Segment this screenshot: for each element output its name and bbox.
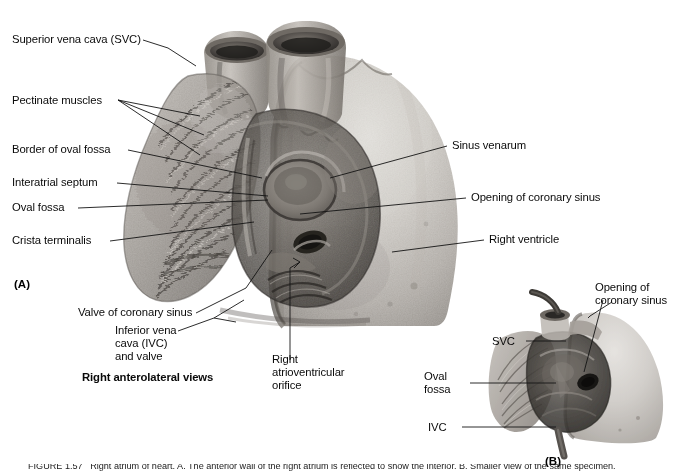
panel-a-marker: (A) (14, 278, 30, 290)
figure-caption-strip: FIGURE 1.57 Right atrium of heart. A. Th… (0, 464, 678, 474)
panel-b-superior-tube (532, 292, 558, 312)
label-border-of-oval-fossa: Border of oval fossa (12, 143, 110, 156)
label-inferior-vena-cava-and-valve: Inferior vena cava (IVC) and valve (115, 324, 177, 364)
label-sinus-venarum: Sinus venarum (452, 139, 526, 152)
view-caption: Right anterolateral views (82, 371, 213, 384)
label-b-svc: SVC (492, 335, 515, 348)
label-oval-fossa: Oval fossa (12, 201, 64, 214)
panel-a-specimen-image (70, 18, 490, 328)
label-opening-of-coronary-sinus: Opening of coronary sinus (471, 191, 600, 204)
panel-b-atrial-cavity (527, 332, 611, 432)
label-b-ivc: IVC (428, 421, 447, 434)
figure-container: Superior vena cava (SVC) Pectinate muscl… (0, 0, 678, 474)
figure-caption-text: FIGURE 1.57 Right atrium of heart. A. Th… (28, 464, 616, 471)
label-interatrial-septum: Interatrial septum (12, 176, 97, 189)
label-right-atrioventricular-orifice: Right atrioventricular orifice (272, 353, 345, 393)
panel-b-inferior-tube (558, 430, 564, 456)
label-pectinate-muscles: Pectinate muscles (12, 94, 102, 107)
label-b-oval-fossa: Oval fossa (424, 370, 451, 396)
label-crista-terminalis: Crista terminalis (12, 234, 91, 247)
label-valve-of-coronary-sinus: Valve of coronary sinus (78, 306, 192, 319)
label-right-ventricle: Right ventricle (489, 233, 559, 246)
label-b-opening-of-coronary-sinus: Opening of coronary sinus (595, 281, 667, 307)
label-superior-vena-cava: Superior vena cava (SVC) (12, 33, 141, 46)
